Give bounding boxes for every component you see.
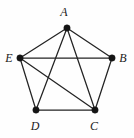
graph-vertex-a	[64, 25, 70, 31]
vertex-label-b: B	[119, 52, 126, 64]
graph-vertex-c	[92, 107, 98, 113]
vertex-label-e: E	[5, 52, 12, 64]
graph-edge-c-e	[20, 58, 95, 110]
graph-vertex-e	[17, 55, 23, 61]
graph-edge-a-e	[20, 28, 67, 58]
graph-edge-a-b	[67, 28, 112, 58]
graph-edge-b-c	[95, 58, 112, 110]
graph-figure: ABCDE	[0, 0, 134, 138]
graph-edge-a-d	[36, 28, 67, 110]
graph-edge-d-e	[20, 58, 36, 110]
graph-edge-a-c	[67, 28, 95, 110]
vertex-label-a: A	[60, 6, 67, 18]
graph-vertex-b	[109, 55, 115, 61]
graph-canvas	[0, 0, 134, 138]
edges-group	[20, 28, 112, 110]
graph-vertex-d	[33, 107, 39, 113]
vertex-label-d: D	[31, 120, 40, 132]
vertex-label-c: C	[90, 120, 98, 132]
vertices-group	[17, 25, 115, 113]
